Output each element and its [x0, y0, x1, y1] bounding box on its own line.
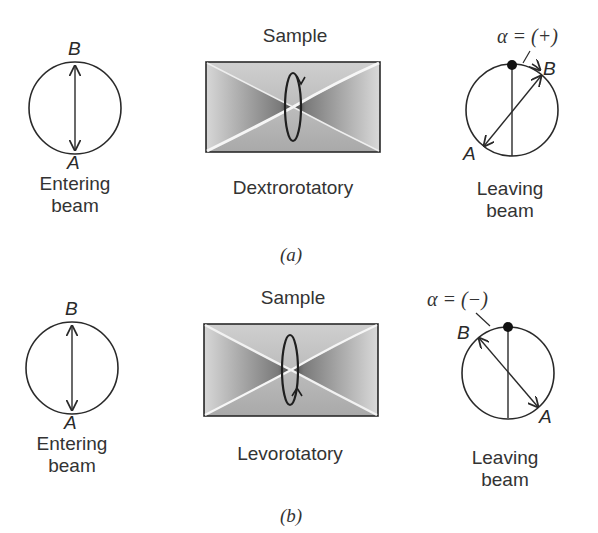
leaving-beam-b-label: Leaving beam: [455, 447, 555, 491]
leaving-beam-a-label: Leaving beam: [460, 178, 560, 222]
panel-b-label: (b): [280, 505, 302, 527]
leaving-beam-b: [462, 313, 554, 419]
entering-b-letter-a: A: [64, 412, 77, 434]
entering-beam-a-label: Entering beam: [20, 173, 130, 217]
leaving-b-letter-a: A: [539, 406, 552, 428]
leaving-b-letter-b: B: [457, 322, 470, 344]
entering-b-letter-b: B: [65, 298, 78, 320]
leaving-a-letter-b: B: [543, 58, 556, 80]
sample-dextrorotatory: [206, 62, 380, 152]
alpha-negative-label: α = (−): [427, 288, 488, 311]
entering-beam-b-label: Entering beam: [17, 433, 127, 477]
sample-a-title: Sample: [230, 25, 360, 47]
sample-levorotatory: [204, 324, 378, 416]
entering-a-letter-a: A: [67, 152, 80, 174]
entering-beam-b: [26, 322, 118, 414]
sample-b-title: Sample: [228, 287, 358, 309]
alpha-positive-label: α = (+): [497, 25, 558, 48]
sample-a-type: Dextrorotatory: [213, 177, 373, 199]
entering-beam-a: [29, 62, 121, 154]
entering-a-letter-b: B: [68, 38, 81, 60]
panel-a-label: (a): [280, 244, 302, 266]
sample-b-type: Levorotatory: [215, 443, 365, 465]
leaving-a-letter-a: A: [463, 143, 476, 165]
